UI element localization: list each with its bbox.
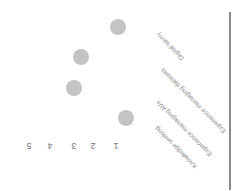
axis-tick: 5	[26, 141, 31, 151]
chart: Digital savvy Experience managing datase…	[0, 0, 236, 191]
data-point-experience-managing-avs	[66, 80, 82, 96]
axis-tick: 3	[71, 141, 76, 151]
axis-tick: 1	[113, 141, 118, 151]
data-point-experience-managing-datasets	[73, 49, 89, 65]
category-label: Digital savvy	[154, 31, 185, 62]
axis-line	[229, 12, 231, 190]
data-point-knowledge-seeking	[118, 110, 134, 126]
category-label: Experience managing datasets	[159, 67, 227, 135]
data-point-digital-savvy	[110, 19, 126, 35]
axis-tick: 2	[90, 141, 95, 151]
axis-tick: 4	[47, 141, 52, 151]
